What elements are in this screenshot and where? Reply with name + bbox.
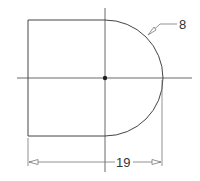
radius-arrow-icon bbox=[148, 27, 156, 35]
dimension-arrow-left-icon bbox=[29, 160, 38, 165]
dimension-arrow-right-icon bbox=[152, 160, 161, 165]
length-label: 19 bbox=[116, 155, 130, 170]
radius-label: 8 bbox=[179, 17, 186, 32]
center-point bbox=[103, 76, 107, 80]
technical-drawing: 8 19 bbox=[0, 0, 200, 181]
